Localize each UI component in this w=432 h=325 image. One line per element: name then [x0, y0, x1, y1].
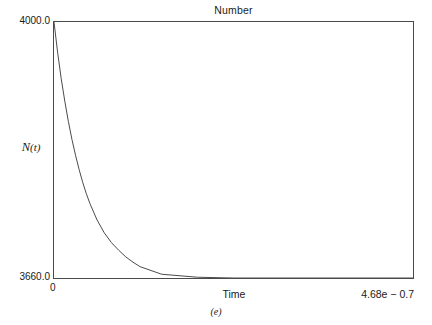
- y-axis-max-label: 4000.0: [8, 15, 50, 26]
- x-axis-min-label: 0: [50, 282, 56, 293]
- x-axis-title: Time: [154, 288, 314, 300]
- plot-frame: [53, 21, 414, 279]
- plot-canvas: [54, 22, 413, 278]
- y-axis-min-label: 3660.0: [8, 271, 50, 282]
- y-axis-title-symbol: N: [22, 140, 30, 154]
- x-axis-max-label: 4.68e − 0.7: [330, 288, 414, 300]
- decay-curve-line: [54, 22, 413, 278]
- y-axis-title-arg: (t): [30, 141, 40, 153]
- figure-caption: (e): [0, 306, 432, 317]
- chart-title: Number: [53, 4, 414, 16]
- figure-container: Number 4000.0 3660.0 0 4.68e − 0.7 N(t) …: [0, 0, 432, 325]
- y-axis-title: N(t): [12, 140, 50, 155]
